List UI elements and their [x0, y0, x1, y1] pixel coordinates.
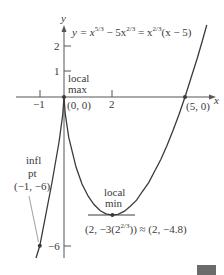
- x-axis-label: x: [213, 94, 219, 106]
- inflection-coords: (−1, −6): [14, 180, 51, 193]
- local-min-label-line2: min: [105, 197, 123, 209]
- local-max-label-line2: max: [68, 83, 87, 95]
- point-inflection: [38, 244, 42, 248]
- x-tick-label-2: 2: [109, 98, 115, 110]
- y-axis-label: y: [60, 12, 66, 24]
- y-axis-arrow-icon: [62, 25, 67, 32]
- point-root: [183, 95, 187, 99]
- point-local-max: [62, 95, 66, 99]
- local-min-coords: (2, −3(22/3)) ≈ (2, −4.8): [85, 222, 187, 236]
- curve-right-branch: [64, 25, 207, 215]
- y-tick-label-2: 2: [54, 40, 60, 52]
- root-coords: (5, 0): [186, 100, 210, 113]
- inflection-label-line1: infl: [26, 154, 41, 166]
- y-tick-label-minus6: −6: [48, 240, 60, 252]
- equation-title: y = x5/3 − 5x2/3 = x2/3(x − 5): [71, 25, 192, 39]
- inflection-leader-line: [29, 196, 39, 242]
- inflection-label-line2: pt: [28, 167, 37, 179]
- function-graph: x −1 2 y 2 1 −6: [0, 0, 224, 275]
- point-local-min: [110, 213, 114, 217]
- curve-left-branch: [36, 97, 64, 258]
- x-tick-label-minus1: −1: [33, 98, 45, 110]
- local-max-coords: (0, 0): [67, 99, 91, 112]
- y-tick-label-1: 1: [54, 65, 60, 77]
- corner-marker: [197, 265, 216, 275]
